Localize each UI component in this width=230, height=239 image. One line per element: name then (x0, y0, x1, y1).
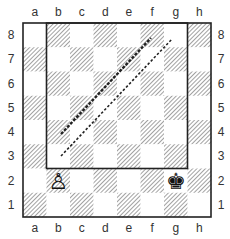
square-f6 (141, 72, 165, 97)
square-d6 (94, 72, 118, 97)
square-h5 (188, 96, 212, 121)
square-b6 (47, 72, 71, 97)
file-label-b-bottom: b (51, 221, 65, 235)
rank-label-3-left: 3 (4, 149, 18, 163)
square-e5 (117, 96, 141, 121)
file-label-e-bottom: e (122, 221, 136, 235)
square-d7 (94, 47, 118, 72)
square-e4 (117, 120, 141, 145)
square-h7 (188, 47, 212, 72)
square-h1 (188, 193, 212, 218)
file-label-a-top: a (28, 5, 42, 19)
square-h4 (188, 120, 212, 145)
square-a3 (23, 144, 47, 169)
square-c8 (70, 23, 94, 48)
square-a2 (23, 169, 47, 194)
square-e2 (117, 169, 141, 194)
rank-label-2-right: 2 (214, 174, 228, 188)
square-g4 (164, 120, 188, 145)
square-e1 (117, 193, 141, 218)
square-d3 (94, 144, 118, 169)
square-a7 (23, 47, 47, 72)
file-label-g-bottom: g (169, 221, 183, 235)
black-king-icon: ♚ (166, 169, 186, 194)
square-c7 (70, 47, 94, 72)
rank-label-5-left: 5 (4, 101, 18, 115)
square-f2 (141, 169, 165, 194)
square-d4 (94, 120, 118, 145)
square-h3 (188, 144, 212, 169)
rank-label-8-right: 8 (214, 28, 228, 42)
square-g3 (164, 144, 188, 169)
file-label-h-bottom: h (192, 221, 206, 235)
square-a1 (23, 193, 47, 218)
rank-label-4-right: 4 (214, 125, 228, 139)
square-a4 (23, 120, 47, 145)
chess-board: ♙♚ (0, 0, 230, 239)
rank-label-7-left: 7 (4, 52, 18, 66)
square-f3 (141, 144, 165, 169)
square-e7 (117, 47, 141, 72)
square-d8 (94, 23, 118, 48)
file-label-b-top: b (51, 5, 65, 19)
square-b1 (47, 193, 71, 218)
square-b7 (47, 47, 71, 72)
square-b3 (47, 144, 71, 169)
square-g7 (164, 47, 188, 72)
square-f4 (141, 120, 165, 145)
rank-label-6-left: 6 (4, 77, 18, 91)
square-g1 (164, 193, 188, 218)
white-pawn-icon: ♙ (48, 169, 68, 194)
square-c3 (70, 144, 94, 169)
rank-label-5-right: 5 (214, 101, 228, 115)
square-b8 (47, 23, 71, 48)
rank-label-3-right: 3 (214, 149, 228, 163)
rank-label-1-right: 1 (214, 198, 228, 212)
square-h6 (188, 72, 212, 97)
square-d2 (94, 169, 118, 194)
rank-label-7-right: 7 (214, 52, 228, 66)
file-label-d-top: d (98, 5, 112, 19)
square-c4 (70, 120, 94, 145)
file-label-a-bottom: a (28, 221, 42, 235)
square-a5 (23, 96, 47, 121)
file-label-d-bottom: d (98, 221, 112, 235)
file-label-h-top: h (192, 5, 206, 19)
square-a8 (23, 23, 47, 48)
square-b5 (47, 96, 71, 121)
square-c5 (70, 96, 94, 121)
square-g6 (164, 72, 188, 97)
file-label-c-top: c (75, 5, 89, 19)
chess-diagram: ♙♚ aabbccddeeffgghh8877665544332211 (0, 0, 230, 239)
file-label-f-top: f (145, 5, 159, 19)
square-e3 (117, 144, 141, 169)
file-label-f-bottom: f (145, 221, 159, 235)
file-label-g-top: g (169, 5, 183, 19)
square-d1 (94, 193, 118, 218)
file-label-c-bottom: c (75, 221, 89, 235)
square-g5 (164, 96, 188, 121)
square-f1 (141, 193, 165, 218)
rank-label-1-left: 1 (4, 198, 18, 212)
square-b4 (47, 120, 71, 145)
square-h8 (188, 23, 212, 48)
rank-label-8-left: 8 (4, 28, 18, 42)
square-h2 (188, 169, 212, 194)
file-label-e-top: e (122, 5, 136, 19)
rank-label-4-left: 4 (4, 125, 18, 139)
square-c6 (70, 72, 94, 97)
square-f5 (141, 96, 165, 121)
rank-label-2-left: 2 (4, 174, 18, 188)
rank-label-6-right: 6 (214, 77, 228, 91)
square-c2 (70, 169, 94, 194)
square-c1 (70, 193, 94, 218)
square-a6 (23, 72, 47, 97)
square-e8 (117, 23, 141, 48)
